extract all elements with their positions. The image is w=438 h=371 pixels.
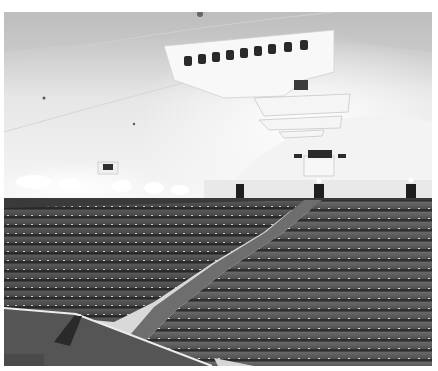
exit-door-left [236,184,244,198]
auditorium-photo [4,12,432,366]
